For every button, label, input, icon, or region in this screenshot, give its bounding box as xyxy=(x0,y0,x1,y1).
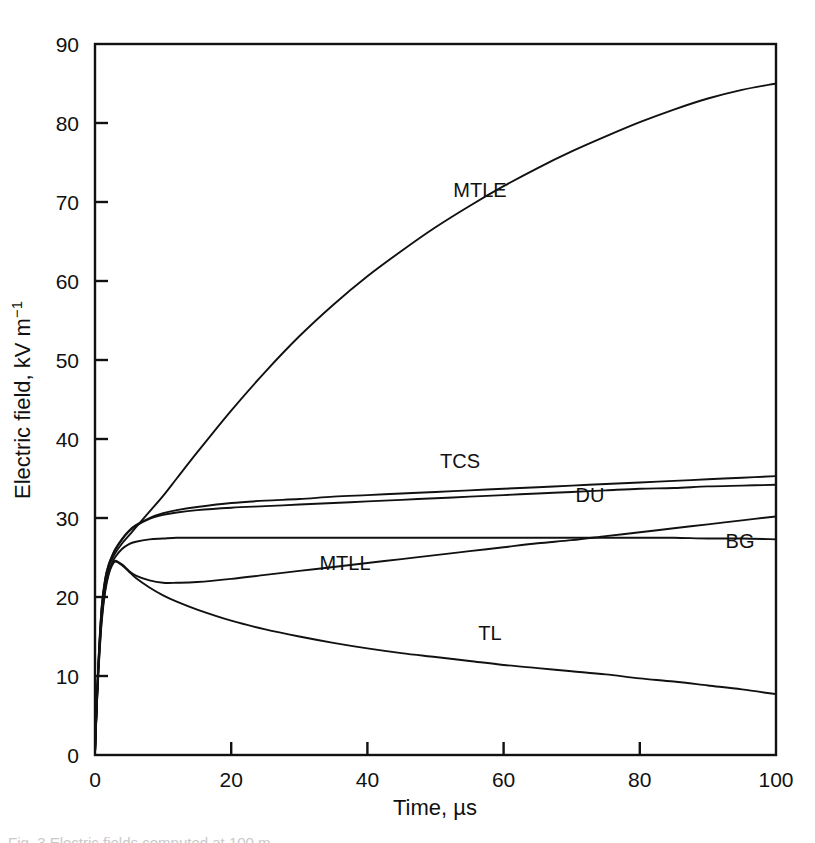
y-tick-label: 0 xyxy=(67,744,79,767)
x-tick-label: 100 xyxy=(758,768,793,791)
figure-container: 0102030405060708090 020406080100 Time, µ… xyxy=(0,0,815,843)
x-tick-label: 0 xyxy=(89,768,101,791)
series-label-du: DU xyxy=(576,484,605,506)
x-tick-label: 60 xyxy=(492,768,515,791)
y-tick-label: 20 xyxy=(56,586,79,609)
series-label-bg: BG xyxy=(726,530,755,552)
y-tick-label: 70 xyxy=(56,191,79,214)
y-axis-title-group: Electric field, kV m−1 xyxy=(8,301,35,499)
plot-area-border xyxy=(95,44,776,755)
y-tick-label: 80 xyxy=(56,112,79,135)
y-tick-label: 50 xyxy=(56,349,79,372)
x-tick-label: 20 xyxy=(220,768,243,791)
line-chart: 0102030405060708090 020406080100 Time, µ… xyxy=(0,0,815,843)
x-axis-tick-labels: 020406080100 xyxy=(89,768,793,791)
y-axis-tick-labels: 0102030405060708090 xyxy=(56,33,79,767)
plot-frame xyxy=(95,44,776,755)
y-tick-label: 60 xyxy=(56,270,79,293)
series-label-mtll: MTLL xyxy=(319,552,370,574)
figure-caption-fragment: Fig. 3 Electric fields computed at 100 m xyxy=(8,834,338,843)
series-label-mtle: MTLE xyxy=(453,179,506,201)
x-tick-label: 80 xyxy=(628,768,651,791)
y-tick-label: 30 xyxy=(56,507,79,530)
y-tick-label: 10 xyxy=(56,665,79,688)
x-tick-label: 40 xyxy=(356,768,379,791)
series-label-tcs: TCS xyxy=(440,450,480,472)
y-axis-title: Electric field, kV m−1 xyxy=(8,301,35,499)
y-tick-label: 90 xyxy=(56,33,79,56)
y-tick-label: 40 xyxy=(56,428,79,451)
series-label-tl: TL xyxy=(478,622,501,644)
x-axis-title: Time, µs xyxy=(393,795,477,820)
